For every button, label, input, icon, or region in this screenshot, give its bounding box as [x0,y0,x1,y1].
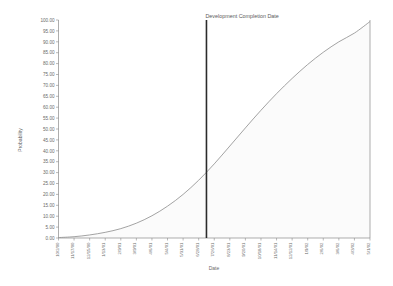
x-tick-label: 10/2/00 [55,242,60,257]
y-tick-label: 25.00 [43,181,55,186]
y-tick-label: 75.00 [43,72,55,77]
x-tick-label: 3/9/01 [132,242,137,255]
y-tick-label: 5.00 [46,225,55,230]
y-tick-label: 10.00 [43,214,55,219]
y-tick-label: 15.00 [43,203,55,208]
x-axis-ticks: 10/2/0011/17/0012/15/001/13/012/9/013/9/… [55,238,372,259]
curve-area-fill [59,22,371,238]
x-axis-title: Date [209,265,220,271]
y-axis-title: Probability [17,128,23,152]
y-tick-label: 55.00 [43,116,55,121]
x-tick-label: 4/6/01 [148,242,153,255]
x-tick-label: 12/15/00 [86,242,91,259]
x-tick-label: 1/13/01 [101,242,106,257]
x-tick-label: 4/3/02 [350,242,355,255]
x-tick-label: 7/26/01 [210,242,215,257]
probability-chart: 100.0095.0090.0085.0080.0075.0070.0065.0… [0,0,393,286]
x-tick-label: 5/4/01 [164,242,169,255]
x-tick-label: 10/18/01 [257,242,262,259]
y-tick-label: 95.00 [43,29,55,34]
y-tick-label: 85.00 [43,50,55,55]
x-tick-label: 9/20/01 [241,242,246,257]
y-tick-label: 35.00 [43,159,55,164]
y-tick-label: 30.00 [43,170,55,175]
x-tick-label: 1/9/02 [304,242,309,255]
x-tick-label: 5/31/01 [179,242,184,257]
y-axis-ticks: 100.0095.0090.0085.0080.0075.0070.0065.0… [40,18,58,241]
x-tick-label: 6/28/01 [195,242,200,257]
x-tick-label: 5/1/02 [366,242,371,255]
y-tick-label: 0.00 [46,236,55,241]
x-tick-label: 11/17/00 [70,242,75,259]
y-tick-label: 50.00 [43,127,55,132]
y-tick-label: 45.00 [43,138,55,143]
y-tick-label: 65.00 [43,94,55,99]
x-tick-label: 12/12/01 [288,242,293,259]
x-tick-label: 8/23/01 [226,242,231,257]
development-completion-date-label: Development Completion Date [205,13,278,19]
y-tick-label: 40.00 [43,149,55,154]
chart-svg: 100.0095.0090.0085.0080.0075.0070.0065.0… [0,0,393,286]
y-tick-label: 90.00 [43,40,55,45]
y-tick-label: 60.00 [43,105,55,110]
y-tick-label: 20.00 [43,192,55,197]
y-tick-label: 100.00 [40,18,54,23]
y-tick-label: 70.00 [43,83,55,88]
x-tick-label: 3/6/02 [335,242,340,255]
y-tick-label: 80.00 [43,61,55,66]
x-tick-label: 2/9/01 [117,242,122,255]
x-tick-label: 2/6/02 [319,242,324,255]
x-tick-label: 11/14/01 [273,242,278,259]
